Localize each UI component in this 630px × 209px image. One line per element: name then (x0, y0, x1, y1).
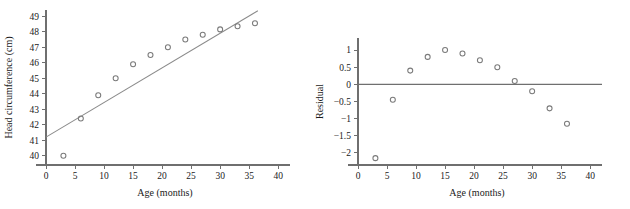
data-point (460, 51, 465, 56)
data-point (235, 24, 240, 29)
x-tick-label: 40 (585, 171, 595, 181)
data-point (408, 68, 413, 73)
data-point (443, 48, 448, 53)
x-tick-label: 0 (44, 171, 49, 181)
least-squares-line (46, 11, 258, 137)
data-point (148, 52, 153, 57)
y-tick-label: 43 (30, 105, 40, 115)
x-tick-label: 25 (186, 171, 196, 181)
data-point (477, 58, 482, 63)
residual-plot-panel: 051015202530354010.50−0.5−1−1.5−2Age (mo… (315, 0, 630, 209)
y-tick-label: −1 (341, 114, 351, 124)
y-tick-label: −2 (341, 148, 351, 158)
x-axis-title: Age (months) (137, 187, 192, 199)
y-tick-label: 42 (30, 120, 40, 130)
x-tick-label: 5 (385, 171, 390, 181)
x-axis-title: Age (months) (449, 187, 504, 199)
data-point (218, 27, 223, 32)
x-tick-label: 30 (215, 171, 225, 181)
residual-plot-svg: 051015202530354010.50−0.5−1−1.5−2Age (mo… (315, 0, 630, 209)
x-tick-label: 20 (469, 171, 479, 181)
y-tick-label: 1 (346, 45, 351, 55)
data-point (131, 62, 136, 67)
data-point (564, 121, 569, 126)
data-point (200, 32, 205, 37)
data-point (530, 89, 535, 94)
x-tick-label: 35 (244, 171, 254, 181)
y-tick-label: 45 (30, 74, 40, 84)
data-point (495, 65, 500, 70)
y-tick-label: 0 (346, 80, 351, 90)
y-tick-label: 44 (30, 89, 40, 99)
x-tick-label: 15 (440, 171, 450, 181)
y-tick-label: 41 (30, 136, 40, 146)
y-tick-label: 47 (30, 43, 40, 53)
data-point (252, 21, 257, 26)
data-point (425, 54, 430, 59)
x-tick-label: 40 (273, 171, 283, 181)
scatter-plot-svg: 051015202530354040414243444546474849Age … (0, 0, 315, 209)
x-tick-label: 10 (99, 171, 109, 181)
data-point (512, 78, 517, 83)
x-tick-label: 15 (128, 171, 138, 181)
scatter-plot-panel: 051015202530354040414243444546474849Age … (0, 0, 315, 209)
data-point (61, 153, 66, 158)
y-tick-label: 46 (30, 58, 40, 68)
x-tick-label: 20 (157, 171, 167, 181)
data-point (96, 93, 101, 98)
y-tick-label: −1.5 (334, 131, 351, 141)
data-point (165, 45, 170, 50)
x-tick-label: 0 (356, 171, 361, 181)
data-point (547, 106, 552, 111)
data-point (113, 76, 118, 81)
x-tick-label: 25 (498, 171, 508, 181)
y-tick-label: −0.5 (334, 97, 351, 107)
figure-container: 051015202530354040414243444546474849Age … (0, 0, 630, 209)
y-axis-title: Residual (315, 84, 325, 119)
x-tick-label: 10 (411, 171, 421, 181)
y-tick-label: 0.5 (339, 63, 351, 73)
y-axis-title: Head circumference (cm) (3, 36, 15, 138)
x-tick-label: 35 (556, 171, 566, 181)
y-tick-label: 48 (30, 27, 40, 37)
data-point (373, 156, 378, 161)
data-point (390, 97, 395, 102)
x-tick-label: 30 (527, 171, 537, 181)
y-tick-label: 49 (30, 12, 40, 22)
y-tick-label: 40 (30, 151, 40, 161)
x-tick-label: 5 (73, 171, 78, 181)
data-point (183, 37, 188, 42)
